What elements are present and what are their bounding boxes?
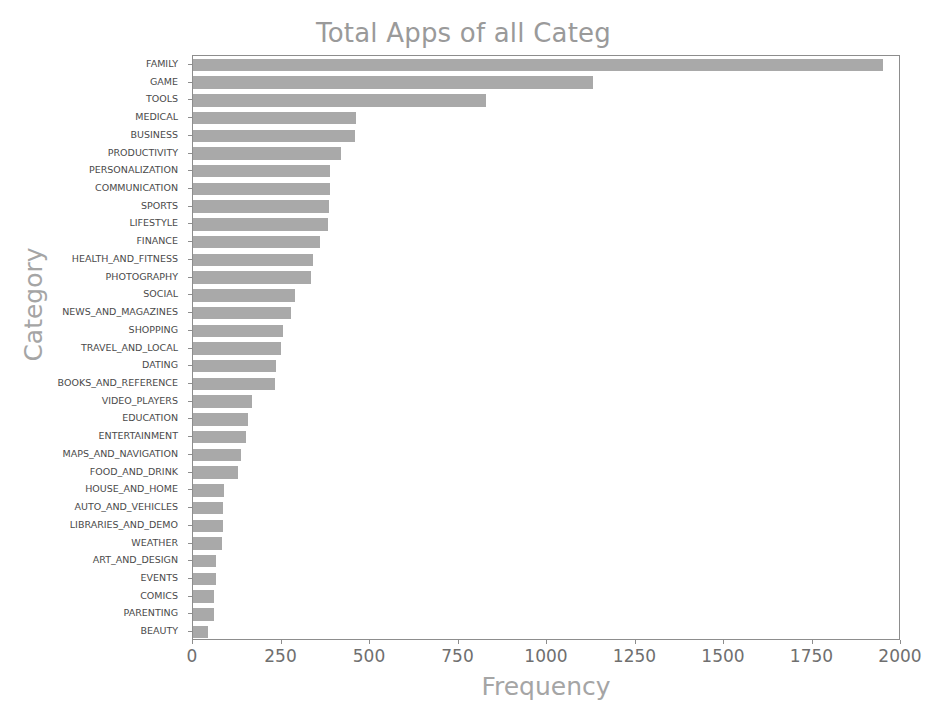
bar-finance (193, 236, 320, 248)
y-tick-mark (188, 560, 192, 561)
y-tick-mark (188, 631, 192, 632)
bar-game (193, 76, 593, 88)
bar-row (193, 183, 899, 195)
bar-travel-and-local (193, 342, 281, 354)
y-tick-mark (188, 596, 192, 597)
y-tick-mark (188, 312, 192, 313)
y-tick-mark (188, 578, 192, 579)
y-tick-mark (188, 330, 192, 331)
y-tick-label: PERSONALIZATION (89, 165, 178, 175)
bar-row (193, 200, 899, 212)
bar-beauty (193, 626, 208, 638)
y-tick-mark (188, 82, 192, 83)
y-tick-label: FAMILY (146, 59, 178, 69)
x-tick-mark (635, 640, 636, 644)
bar-house-and-home (193, 484, 224, 496)
y-tick-label: PRODUCTIVITY (108, 148, 178, 158)
bar-medical (193, 112, 356, 124)
y-tick-label: ART_AND_DESIGN (93, 555, 178, 565)
y-tick-label: MEDICAL (135, 112, 178, 122)
bar-food-and-drink (193, 466, 238, 478)
y-tick-mark (188, 64, 192, 65)
x-tick-label: 1500 (683, 646, 763, 666)
bar-row (193, 502, 899, 514)
y-tick-mark (188, 99, 192, 100)
bar-sports (193, 200, 329, 212)
y-tick-label: TOOLS (146, 94, 178, 104)
y-tick-label: HOUSE_AND_HOME (85, 484, 178, 494)
y-tick-mark (188, 294, 192, 295)
y-tick-label: LIBRARIES_AND_DEMO (70, 520, 178, 530)
y-tick-mark (188, 472, 192, 473)
bar-libraries-and-demo (193, 520, 223, 532)
y-tick-label: LIFESTYLE (130, 218, 179, 228)
bar-row (193, 59, 899, 71)
bar-row (193, 608, 899, 620)
y-tick-mark (188, 348, 192, 349)
y-tick-label: ENTERTAINMENT (99, 431, 178, 441)
y-tick-label: GAME (150, 77, 178, 87)
y-axis-tick-labels: FAMILYGAMETOOLSMEDICALBUSINESSPRODUCTIVI… (0, 55, 186, 640)
bar-row (193, 130, 899, 142)
bar-shopping (193, 325, 283, 337)
y-tick-label: COMICS (140, 591, 178, 601)
y-tick-mark (188, 383, 192, 384)
bar-row (193, 147, 899, 159)
y-tick-mark (188, 543, 192, 544)
bar-row (193, 76, 899, 88)
y-tick-label: MAPS_AND_NAVIGATION (63, 449, 178, 459)
bar-series (193, 56, 899, 639)
x-axis-title: Frequency (192, 672, 900, 701)
x-tick-mark (192, 640, 193, 644)
bar-events (193, 573, 216, 585)
y-tick-mark (188, 277, 192, 278)
y-tick-mark (188, 418, 192, 419)
bar-news-and-magazines (193, 307, 291, 319)
bar-row (193, 112, 899, 124)
bar-row (193, 218, 899, 230)
x-tick-label: 0 (152, 646, 232, 666)
x-tick-mark (900, 640, 901, 644)
bar-row (193, 94, 899, 106)
y-tick-mark (188, 613, 192, 614)
bar-row (193, 395, 899, 407)
x-tick-label: 750 (418, 646, 498, 666)
bar-row (193, 449, 899, 461)
bar-personalization (193, 165, 330, 177)
bar-productivity (193, 147, 341, 159)
x-tick-mark (812, 640, 813, 644)
bar-communication (193, 183, 330, 195)
bar-row (193, 236, 899, 248)
bar-lifestyle (193, 218, 328, 230)
y-tick-label: FINANCE (136, 236, 178, 246)
bar-tools (193, 94, 486, 106)
y-tick-mark (188, 206, 192, 207)
y-tick-mark (188, 489, 192, 490)
y-tick-mark (188, 507, 192, 508)
bar-row (193, 537, 899, 549)
y-tick-label: SPORTS (141, 201, 178, 211)
y-tick-mark (188, 188, 192, 189)
bar-row (193, 590, 899, 602)
y-tick-label: FOOD_AND_DRINK (90, 467, 178, 477)
y-tick-label: HEALTH_AND_FITNESS (72, 254, 178, 264)
y-tick-label: VIDEO_PLAYERS (102, 396, 178, 406)
y-tick-label: SOCIAL (143, 289, 178, 299)
y-tick-mark (188, 454, 192, 455)
y-tick-label: EVENTS (141, 573, 178, 583)
bar-family (193, 59, 883, 71)
y-tick-label: PHOTOGRAPHY (106, 272, 178, 282)
y-tick-label: DATING (142, 360, 178, 370)
chart-figure: Total Apps of all Categ Category FAMILYG… (0, 0, 927, 716)
y-tick-mark (188, 241, 192, 242)
x-tick-mark (281, 640, 282, 644)
bar-row (193, 165, 899, 177)
x-tick-mark (369, 640, 370, 644)
bar-row (193, 271, 899, 283)
y-tick-mark (188, 153, 192, 154)
bar-row (193, 413, 899, 425)
x-tick-label: 250 (241, 646, 321, 666)
bar-entertainment (193, 431, 246, 443)
y-tick-label: AUTO_AND_VEHICLES (74, 502, 178, 512)
x-tick-mark (723, 640, 724, 644)
